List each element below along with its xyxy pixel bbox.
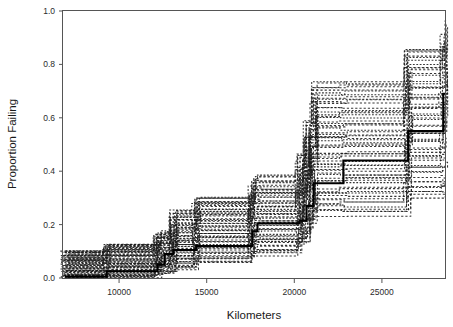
proportion-failing-chart: 0.00.20.40.60.81.0 10000150002000025000 … [0, 0, 453, 327]
y-tick-label: 0.8 [43, 59, 55, 69]
x-tick-label: 20000 [282, 287, 306, 297]
y-tick-label: 0.2 [43, 220, 55, 230]
x-tick-label: 15000 [195, 287, 219, 297]
x-axis-title: Kilometers [227, 309, 282, 321]
chart-figure: 0.00.20.40.60.81.0 10000150002000025000 … [0, 0, 453, 327]
y-tick-label: 1.0 [43, 6, 55, 16]
y-tick-label: 0.0 [43, 273, 55, 283]
y-axis-title: Proportion Failing [6, 99, 18, 189]
x-tick-label: 25000 [370, 287, 394, 297]
y-tick-label: 0.6 [43, 113, 55, 123]
y-tick-label: 0.4 [43, 166, 55, 176]
x-tick-label: 10000 [107, 287, 131, 297]
